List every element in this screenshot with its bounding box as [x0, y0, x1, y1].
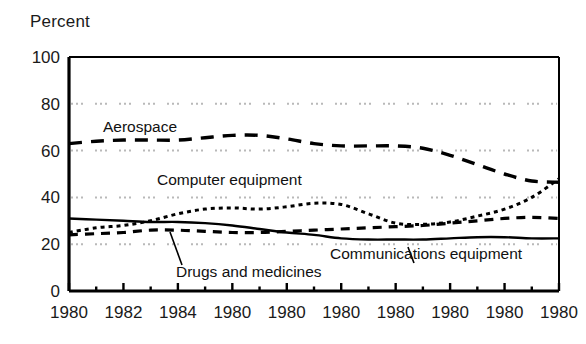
computer-equipment-label: Computer equipment [157, 171, 302, 188]
series-annotations: Aerospace Computer equipment Drugs and m… [0, 0, 586, 344]
communications-equipment-label: Communications equipment [330, 245, 523, 262]
drugs-and-medicines-label: Drugs and medicines [176, 263, 322, 280]
chart-figure: Percent 020406080100 1980198219841980198… [0, 0, 586, 344]
aerospace-label: Aerospace [103, 118, 177, 135]
